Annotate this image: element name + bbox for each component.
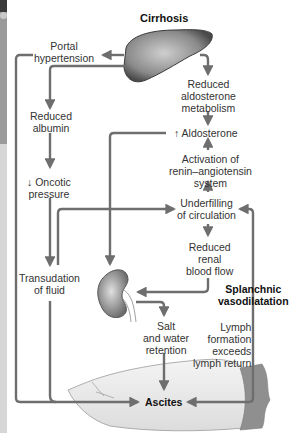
kidney-illustration (98, 270, 136, 322)
liver-illustration (124, 30, 212, 82)
node-salt-water-retention: Salt and water retention (143, 320, 189, 356)
node-renin-angiotensin: Activation of renin–angiotensin system (169, 153, 252, 189)
node-portal-hypertension: Portal hypertension (34, 40, 94, 64)
node-reduced-albumin: Reduced albumin (30, 110, 72, 134)
node-reduced-aldosterone-metabolism: Reduced aldosterone metabolism (181, 78, 236, 114)
node-lymph-formation: Lymph formation exceeds lymph return (193, 321, 251, 369)
node-splanchnic-vasodilatation: Splanchnic vasodilatation (218, 283, 289, 307)
node-transudation: Transudation of fluid (19, 272, 80, 296)
node-renal-blood-flow: Reduced renal blood flow (186, 241, 233, 277)
node-aldosterone: ↑ Aldosterone (174, 127, 238, 139)
title-cirrhosis: Cirrhosis (140, 12, 188, 24)
node-ascites: Ascites (145, 396, 182, 408)
node-underfilling: Underfilling of circulation (177, 197, 236, 221)
node-oncotic-pressure: ↓ Oncotic pressure (27, 176, 71, 200)
